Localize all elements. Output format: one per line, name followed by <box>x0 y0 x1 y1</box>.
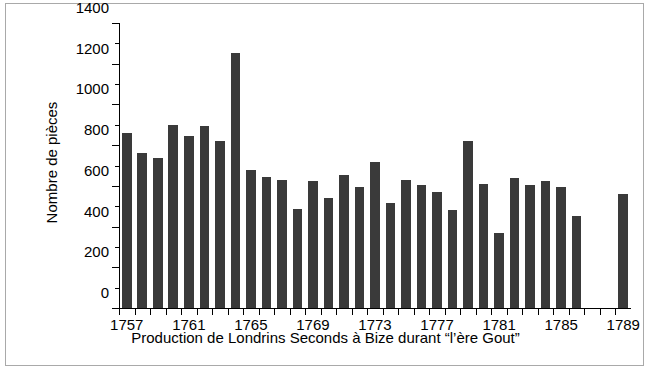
figure-container: Nombre de pièces 02004006008001000120014… <box>0 0 651 379</box>
bar <box>308 181 318 308</box>
x-tick <box>584 309 585 315</box>
plot-area: 0200400600800100012001400 17571761176517… <box>119 24 631 309</box>
bar <box>293 209 303 308</box>
bar <box>401 180 411 308</box>
y-tick-label: 200 <box>84 243 109 260</box>
bar <box>184 136 194 308</box>
bar <box>122 133 132 308</box>
figure-frame: Nombre de pièces 02004006008001000120014… <box>5 3 644 366</box>
x-tick <box>150 309 151 315</box>
x-tick <box>197 309 198 315</box>
x-tick <box>538 309 539 315</box>
y-tick-major <box>112 267 120 268</box>
bar <box>417 185 427 308</box>
x-tick <box>259 309 260 315</box>
x-tick <box>429 309 430 315</box>
y-tick-label: 1000 <box>76 80 109 97</box>
x-tick <box>135 309 136 315</box>
y-tick-minor <box>115 125 120 126</box>
bar <box>618 194 628 308</box>
bar <box>556 187 566 308</box>
x-tick <box>398 309 399 315</box>
x-tick <box>522 309 523 315</box>
x-tick <box>569 309 570 315</box>
y-tick-major <box>112 227 120 228</box>
y-tick-label: 800 <box>84 121 109 138</box>
x-tick <box>243 309 244 315</box>
bar <box>525 185 535 308</box>
bar <box>324 198 334 308</box>
y-tick-label: 0 <box>101 284 109 301</box>
bar <box>277 180 287 308</box>
x-tick <box>507 309 508 315</box>
x-tick <box>228 309 229 315</box>
bar <box>168 125 178 308</box>
x-tick <box>274 309 275 315</box>
x-axis-title: Production de Londrins Seconds à Bize du… <box>6 329 645 346</box>
bar <box>231 53 241 308</box>
x-tick <box>600 309 601 315</box>
y-tick-major <box>112 186 120 187</box>
y-tick-minor <box>115 84 120 85</box>
bar <box>215 141 225 308</box>
x-tick <box>181 309 182 315</box>
bar <box>479 184 489 308</box>
y-tick-label: 1400 <box>76 0 109 16</box>
x-tick <box>460 309 461 315</box>
bar <box>262 177 272 308</box>
y-tick-major <box>112 23 120 24</box>
y-tick-minor <box>115 43 120 44</box>
x-tick <box>119 309 120 315</box>
y-tick-label: 400 <box>84 202 109 219</box>
x-tick <box>445 309 446 315</box>
y-tick-minor <box>115 247 120 248</box>
bar <box>448 210 458 308</box>
bar <box>370 162 380 308</box>
y-tick-label: 1200 <box>76 39 109 56</box>
x-tick <box>553 309 554 315</box>
x-tick <box>491 309 492 315</box>
y-tick-major <box>112 145 120 146</box>
bar <box>572 216 582 308</box>
y-tick-minor <box>115 166 120 167</box>
bar <box>541 181 551 308</box>
x-tick <box>166 309 167 315</box>
bar <box>355 187 365 308</box>
x-tick <box>305 309 306 315</box>
y-axis-title: Nombre de pièces <box>43 33 60 293</box>
y-tick-major <box>112 104 120 105</box>
x-tick <box>476 309 477 315</box>
x-tick <box>615 309 616 315</box>
x-tick <box>383 309 384 315</box>
x-tick <box>367 309 368 315</box>
y-tick-major <box>112 64 120 65</box>
bar <box>339 175 349 308</box>
x-tick <box>321 309 322 315</box>
bar <box>246 170 256 308</box>
bar <box>463 141 473 308</box>
bar <box>200 126 210 308</box>
bar <box>432 192 442 308</box>
bar <box>510 178 520 308</box>
y-tick-label: 600 <box>84 161 109 178</box>
x-tick <box>336 309 337 315</box>
bar <box>386 203 396 308</box>
bar <box>494 233 504 308</box>
x-tick <box>212 309 213 315</box>
y-tick-minor <box>115 206 120 207</box>
bar <box>153 158 163 308</box>
bar <box>137 153 147 308</box>
x-tick <box>352 309 353 315</box>
x-tick <box>414 309 415 315</box>
y-tick-minor <box>115 288 120 289</box>
x-tick <box>290 309 291 315</box>
